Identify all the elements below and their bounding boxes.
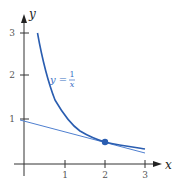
equation-numerator: 1 xyxy=(69,70,74,79)
chart-canvas: 1 2 3 1 2 3 x y y = 1 x xyxy=(0,0,182,184)
tangency-point xyxy=(102,139,108,145)
x-tick-label-1: 1 xyxy=(62,170,68,180)
x-axis-arrow-icon xyxy=(153,161,162,167)
equation-prefix: y = xyxy=(49,74,67,85)
curve-reciprocal xyxy=(38,33,146,149)
x-ticks: 1 2 3 xyxy=(62,160,148,180)
equation-denominator: x xyxy=(70,80,75,89)
y-axis-arrow-icon xyxy=(21,14,27,23)
tangent-line xyxy=(20,120,145,153)
x-axis-label: x xyxy=(165,158,172,172)
x-tick-label-2: 2 xyxy=(102,170,108,180)
y-axis-label: y xyxy=(28,7,36,21)
y-ticks: 1 2 3 xyxy=(9,28,29,124)
y-tick-label-3: 3 xyxy=(9,28,15,38)
equation-label: y = 1 x xyxy=(49,70,75,89)
y-tick-label-1: 1 xyxy=(9,114,15,124)
y-tick-label-2: 2 xyxy=(9,70,15,80)
x-tick-label-3: 3 xyxy=(142,170,148,180)
